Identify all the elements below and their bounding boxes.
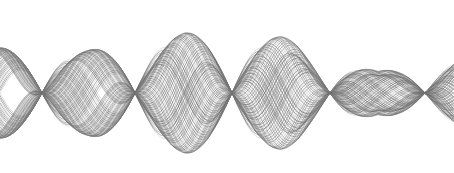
wave-figure — [0, 0, 454, 173]
wave-plot-canvas — [0, 0, 454, 173]
